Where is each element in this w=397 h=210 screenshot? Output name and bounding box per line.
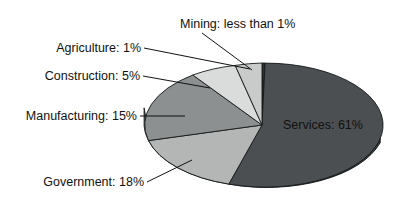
pie-chart-page: Mining: less than 1% Agriculture: 1% Con… xyxy=(0,0,397,210)
label-government: Government: 18% xyxy=(43,175,144,189)
label-manufacturing: Manufacturing: 15% xyxy=(26,109,137,123)
label-construction: Construction: 5% xyxy=(45,69,140,83)
label-mining: Mining: less than 1% xyxy=(180,17,295,31)
pie-chart-figure: Mining: less than 1% Agriculture: 1% Con… xyxy=(0,0,397,210)
label-services: Services: 61% xyxy=(283,118,363,132)
label-agriculture: Agriculture: 1% xyxy=(56,41,141,55)
